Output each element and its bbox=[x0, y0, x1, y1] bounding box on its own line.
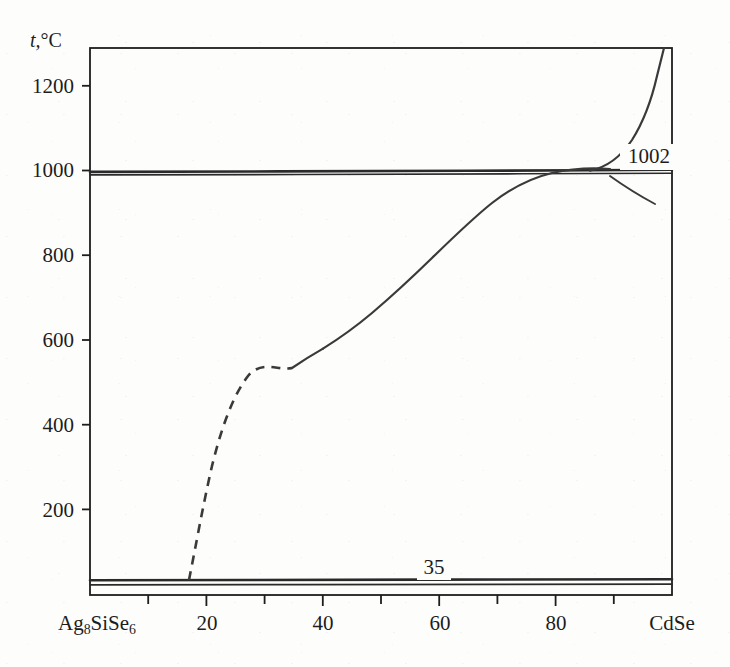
series-liquidus-lower-solid bbox=[292, 349, 323, 368]
y-tick-label-1000: 1000 bbox=[2, 160, 74, 181]
y-axis-title: t,°C bbox=[30, 30, 62, 50]
phase-diagram-figure: t,°C 1200 1000 800 600 400 200 20 40 60 … bbox=[0, 0, 730, 667]
x-axis-right-endmember-label: CdSe bbox=[626, 613, 718, 634]
y-tick-label-800: 800 bbox=[2, 245, 74, 266]
plot-frame bbox=[90, 48, 672, 595]
x-axis-ticks bbox=[148, 595, 614, 606]
y-tick-label-1200: 1200 bbox=[2, 76, 74, 97]
y-axis-title-symbol: t, bbox=[30, 29, 41, 51]
series-liquidus-corner-tail bbox=[610, 176, 655, 204]
annotation-1002: 1002 bbox=[621, 146, 677, 167]
y-axis-title-unit: °C bbox=[41, 29, 62, 51]
series-solidus-lower-invariant bbox=[90, 579, 672, 580]
y-tick-label-600: 600 bbox=[2, 330, 74, 351]
series-liquidus-upper bbox=[323, 168, 610, 348]
endmember-sise: SiSe bbox=[91, 611, 130, 635]
y-axis-ticks bbox=[82, 86, 90, 510]
x-tick-label-40: 40 bbox=[302, 613, 344, 634]
series-solidus-upper-companion bbox=[90, 173, 672, 175]
endmember-se-subscript: 6 bbox=[129, 622, 136, 637]
endmember-ag: Ag bbox=[58, 611, 84, 635]
x-tick-label-80: 80 bbox=[535, 613, 577, 634]
series-liquidus-dashed-extension bbox=[189, 367, 292, 580]
x-tick-label-20: 20 bbox=[186, 613, 228, 634]
endmember-ag-subscript: 8 bbox=[84, 622, 91, 637]
series-solidus-lower-companion bbox=[90, 584, 672, 585]
annotation-35: 35 bbox=[417, 557, 451, 578]
x-axis-left-endmember-label: Ag8SiSe6 bbox=[38, 613, 156, 637]
y-tick-label-400: 400 bbox=[2, 415, 74, 436]
phase-diagram-plot bbox=[0, 0, 730, 667]
series-solidus-upper-invariant bbox=[90, 170, 672, 172]
y-tick-label-200: 200 bbox=[2, 500, 74, 521]
x-tick-label-60: 60 bbox=[419, 613, 461, 634]
